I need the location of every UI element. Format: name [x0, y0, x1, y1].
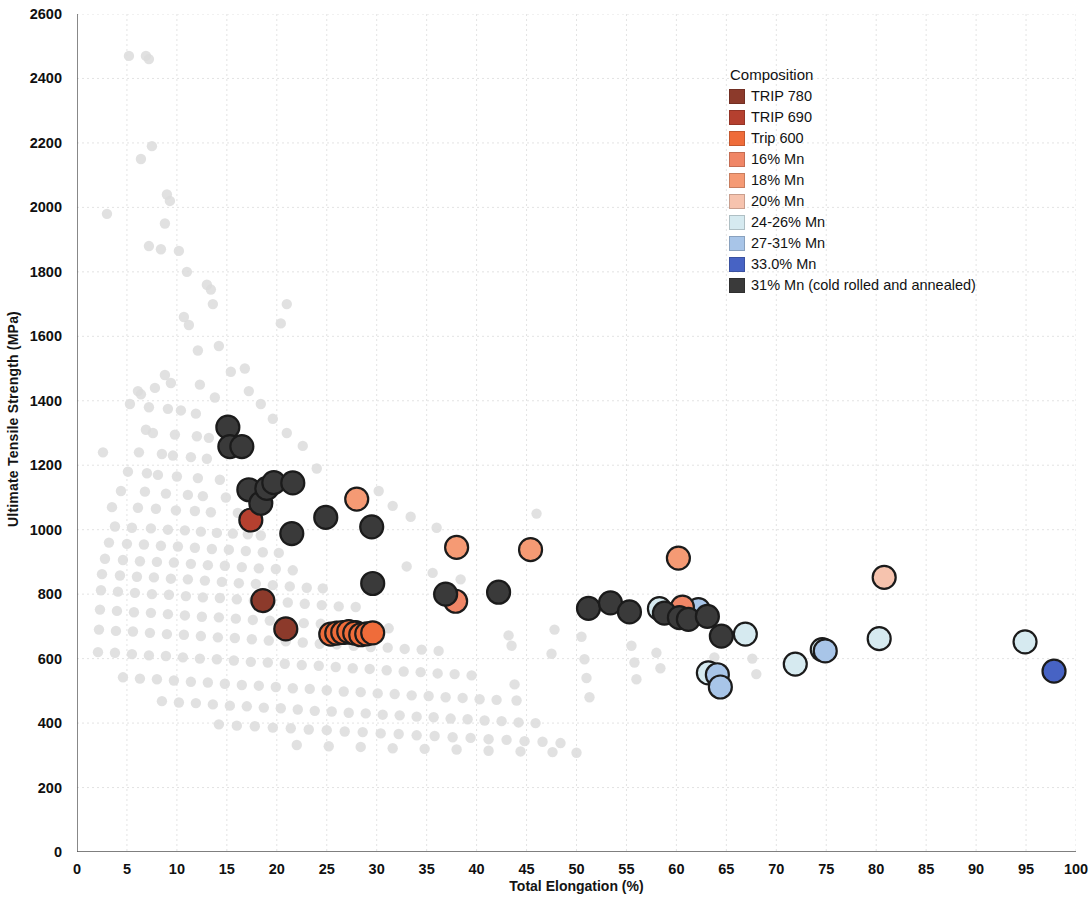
data-point[interactable] [696, 605, 719, 628]
data-point[interactable] [814, 639, 837, 662]
cloud-point [358, 727, 368, 737]
cloud-point [491, 695, 501, 705]
cloud-point [113, 586, 123, 596]
data-point[interactable] [784, 653, 807, 676]
data-point[interactable] [361, 572, 384, 595]
x-tick-label: 50 [557, 862, 597, 877]
cloud-point [348, 663, 358, 673]
y-tick-label: 200 [0, 780, 62, 795]
y-tick-label: 1600 [0, 329, 62, 344]
cloud-point [144, 54, 154, 64]
cloud-point [506, 641, 516, 651]
data-point[interactable] [274, 617, 297, 640]
cloud-point [283, 597, 293, 607]
cloud-point [483, 746, 493, 756]
legend-item[interactable]: 20% Mn [729, 191, 976, 211]
data-point[interactable] [618, 600, 641, 623]
series-18-mn [345, 488, 690, 570]
legend-item[interactable]: 33.0% Mn [729, 254, 976, 274]
data-point[interactable] [230, 435, 253, 458]
series-31-mn-cold-rolled-and-annealed [216, 416, 733, 648]
cloud-point [161, 488, 171, 498]
cloud-point [285, 581, 295, 591]
data-point[interactable] [577, 597, 600, 620]
cloud-point [168, 450, 178, 460]
cloud-point [256, 399, 266, 409]
data-point[interactable] [667, 547, 690, 570]
data-point[interactable] [281, 471, 304, 494]
cloud-point [356, 687, 366, 697]
data-point[interactable] [519, 538, 542, 561]
legend-title: Composition [730, 66, 976, 83]
x-tick-label: 75 [806, 862, 846, 877]
data-point[interactable] [873, 566, 896, 589]
x-tick-label: 85 [906, 862, 946, 877]
x-tick-label: 80 [856, 862, 896, 877]
cloud-point [150, 383, 160, 393]
cloud-point [191, 408, 201, 418]
cloud-point [344, 708, 354, 718]
cloud-point [381, 665, 391, 675]
cloud-point [457, 693, 467, 703]
cloud-point [327, 706, 337, 716]
cloud-point [110, 648, 120, 658]
cloud-point [579, 654, 589, 664]
legend-item[interactable]: 18% Mn [729, 170, 976, 190]
cloud-point [440, 692, 450, 702]
cloud-point [302, 583, 312, 593]
legend-item[interactable]: TRIP 780 [729, 86, 976, 106]
cloud-point [193, 345, 203, 355]
cloud-point [576, 631, 586, 641]
data-point[interactable] [361, 621, 384, 644]
y-tick-label: 1200 [0, 458, 62, 473]
cloud-point [415, 667, 425, 677]
y-tick-label: 1000 [0, 522, 62, 537]
cloud-point [181, 591, 191, 601]
cloud-point [169, 557, 179, 567]
data-point[interactable] [1014, 630, 1037, 653]
cloud-point [365, 664, 375, 674]
cloud-point [125, 399, 135, 409]
cloud-point [451, 744, 461, 754]
legend-item-label: TRIP 690 [751, 110, 812, 125]
data-point[interactable] [734, 623, 757, 646]
data-point[interactable] [868, 627, 891, 650]
data-point[interactable] [710, 625, 733, 648]
cloud-point [416, 644, 426, 654]
legend-item[interactable]: 27-31% Mn [729, 233, 976, 253]
cloud-point [389, 689, 399, 699]
legend-item[interactable]: 31% Mn (cold rolled and annealed) [729, 275, 976, 295]
cloud-point [225, 700, 235, 710]
data-point[interactable] [1043, 660, 1066, 683]
cloud-point [312, 463, 322, 473]
cloud-point [198, 491, 208, 501]
cloud-point [234, 578, 244, 588]
cloud-point [170, 429, 180, 439]
cloud-point [146, 523, 156, 533]
legend-item[interactable]: Trip 600 [729, 128, 976, 148]
cloud-point [466, 670, 476, 680]
legend-item[interactable]: 24-26% Mn [729, 212, 976, 232]
data-point[interactable] [360, 515, 383, 538]
legend-swatch-icon [729, 194, 745, 209]
cloud-point [186, 452, 196, 462]
legend-item[interactable]: 16% Mn [729, 149, 976, 169]
cloud-point [152, 557, 162, 567]
data-point[interactable] [434, 583, 457, 606]
cloud-point [156, 541, 166, 551]
cloud-point [214, 719, 224, 729]
data-point[interactable] [314, 506, 337, 529]
y-tick-label: 800 [0, 587, 62, 602]
cloud-point [174, 246, 184, 256]
cloud-point [530, 718, 540, 728]
legend-item[interactable]: TRIP 690 [729, 107, 976, 127]
data-point[interactable] [280, 522, 303, 545]
cloud-point [173, 541, 183, 551]
data-point[interactable] [345, 488, 368, 511]
data-point[interactable] [709, 675, 732, 698]
legend-swatch-icon [729, 152, 745, 167]
data-point[interactable] [445, 536, 468, 559]
cloud-point [549, 624, 559, 634]
data-point[interactable] [251, 589, 274, 612]
data-point[interactable] [487, 581, 510, 604]
